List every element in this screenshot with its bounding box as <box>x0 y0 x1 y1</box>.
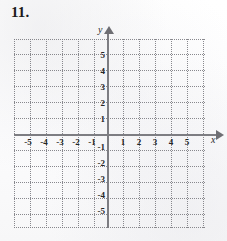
x-tick-label: 1 <box>115 138 131 147</box>
x-tick-label: -2 <box>68 138 84 147</box>
y-tick-label: -1 <box>91 143 105 152</box>
y-axis-arrow-icon <box>104 26 114 34</box>
y-tick-label: 2 <box>91 99 105 108</box>
x-tick-label: 3 <box>147 138 163 147</box>
x-tick-label: 2 <box>131 138 147 147</box>
y-tick-label: -2 <box>91 159 105 168</box>
x-tick-label: -5 <box>20 138 36 147</box>
y-tick-label: 3 <box>91 83 105 92</box>
y-tick-label: 4 <box>91 67 105 76</box>
x-tick-label: -4 <box>36 138 52 147</box>
y-axis <box>107 31 109 228</box>
y-tick-label: -4 <box>91 191 105 200</box>
x-axis-label: x <box>211 135 215 145</box>
x-axis-arrow-icon <box>216 130 224 140</box>
y-tick-label: -3 <box>91 175 105 184</box>
y-tick-label: 5 <box>91 51 105 60</box>
y-tick-label: 1 <box>91 115 105 124</box>
x-tick-label: 4 <box>163 138 179 147</box>
problem-number: 11. <box>11 4 30 20</box>
x-tick-label: -3 <box>52 138 68 147</box>
y-axis-label: y <box>98 25 102 35</box>
y-tick-label: -5 <box>91 207 105 216</box>
x-tick-label: 5 <box>179 138 195 147</box>
coordinate-grid: x y -5 -4 -3 -2 -1 1 2 3 4 5 5 4 3 2 1 -… <box>14 39 206 228</box>
x-axis <box>14 134 218 136</box>
